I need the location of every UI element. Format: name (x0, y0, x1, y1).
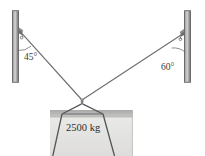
cable-knot (81, 98, 84, 104)
block-mass-label: 2500 kg (66, 122, 101, 133)
right-pole (184, 10, 191, 83)
right-angle-label: 60° (161, 62, 175, 72)
figure-canvas: 45° 60° 2500 kg (0, 0, 205, 156)
left-pole (12, 10, 19, 83)
left-angle-label: 45° (24, 52, 38, 62)
statics-figure: 45° 60° 2500 kg (0, 0, 205, 156)
